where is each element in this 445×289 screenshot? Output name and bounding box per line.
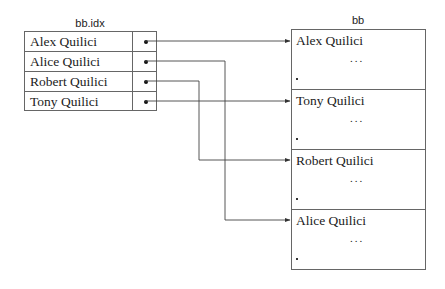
- index-diagram: bb.idx bb Alex Quilici Alice Quilici Rob…: [0, 0, 445, 289]
- pointer-arrows: [0, 0, 445, 289]
- arrow-alice: [145, 61, 290, 220]
- arrow-robert: [145, 81, 290, 160]
